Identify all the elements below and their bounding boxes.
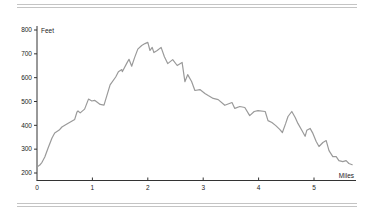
x-tick-label: 5 [312, 184, 316, 191]
x-tick-label: 0 [35, 184, 39, 191]
y-tick-label: 300 [21, 145, 32, 152]
y-tick-label: 400 [21, 122, 32, 129]
y-tick-label: 200 [21, 169, 32, 176]
y-tick-label: 500 [21, 98, 32, 105]
x-tick-label: 3 [201, 184, 205, 191]
x-tick-label: 4 [257, 184, 261, 191]
y-ticks: 200300400500600700800 [21, 26, 37, 176]
top-rule [17, 5, 357, 8]
elevation-chart: 200300400500600700800 012345 Feet Miles [0, 0, 378, 219]
x-tick-label: 1 [91, 184, 95, 191]
bottom-rule [17, 204, 357, 207]
x-tick-label: 2 [146, 184, 150, 191]
y-axis-title: Feet [41, 27, 54, 34]
y-tick-label: 600 [21, 74, 32, 81]
elevation-profile-line [37, 42, 352, 167]
y-tick-label: 800 [21, 26, 32, 33]
y-tick-label: 700 [21, 50, 32, 57]
x-axis-title: Miles [339, 172, 355, 179]
x-ticks: 012345 [35, 178, 316, 191]
